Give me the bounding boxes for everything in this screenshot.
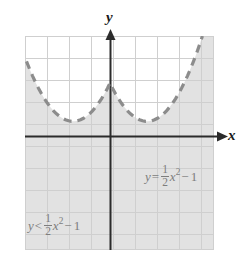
- curve-label-denominator: 2: [161, 177, 169, 189]
- curve-label-fraction: 12: [161, 164, 169, 188]
- x-axis-arrowhead: [217, 132, 228, 142]
- graph-figure: y x y=12x2−1 y<12x2−1: [0, 0, 237, 264]
- region-label-relation: <: [34, 218, 43, 233]
- region-label-lhs: y: [28, 218, 34, 233]
- curve-label-minus: −: [180, 169, 189, 184]
- curve-label-lhs: y: [145, 169, 151, 184]
- region-label-constant: 1: [73, 218, 82, 233]
- region-label-denominator: 2: [44, 226, 52, 238]
- curve-label-numerator: 1: [161, 164, 169, 177]
- curve-label-relation: =: [151, 169, 160, 184]
- region-inequality-label: y<12x2−1: [28, 213, 81, 237]
- region-label-minus: −: [63, 218, 72, 233]
- region-label-fraction: 12: [44, 213, 52, 237]
- region-label-numerator: 1: [44, 213, 52, 226]
- y-axis-label: y: [106, 10, 113, 25]
- y-axis-arrowhead: [106, 29, 116, 40]
- curve-label-constant: 1: [190, 169, 199, 184]
- x-axis-label: x: [228, 128, 236, 143]
- curve-equation-label: y=12x2−1: [145, 164, 198, 188]
